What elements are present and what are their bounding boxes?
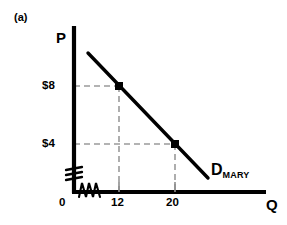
data-point-marker-12-8 <box>115 82 123 90</box>
x-axis-label: Q <box>266 196 278 213</box>
demand-curve-line <box>88 53 208 178</box>
y-tick-label-4: $4 <box>42 137 55 149</box>
demand-curve-figure: (a) P <box>0 0 287 225</box>
demand-curve-label-subscript: MARY <box>223 170 250 180</box>
y-axis-break-icon <box>66 167 82 180</box>
demand-curve-label: DMARY <box>211 161 250 179</box>
y-tick-label-8: $8 <box>42 79 55 91</box>
x-tick-label-0: 0 <box>59 196 65 208</box>
demand-curve-label-main: D <box>211 161 223 178</box>
x-tick-label-12: 12 <box>111 196 124 208</box>
chart-canvas <box>0 0 287 225</box>
x-tick-label-20: 20 <box>166 196 179 208</box>
data-point-marker-20-4 <box>171 140 179 148</box>
y-axis-label: P <box>56 29 66 46</box>
guide-lines <box>74 86 175 192</box>
